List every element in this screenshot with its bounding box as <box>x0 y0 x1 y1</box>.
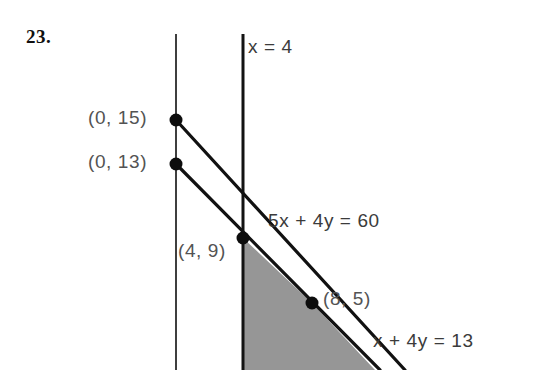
point-marker-8-5 <box>306 297 319 310</box>
line-label-5x-plus-4y-60: 5x + 4y = 60 <box>268 210 380 232</box>
line-label-x-equals-4: x = 4 <box>248 36 293 58</box>
point-marker-0-15 <box>170 114 183 127</box>
line-label-x-plus-4y-13: x + 4y = 13 <box>373 330 474 352</box>
point-marker-4-9 <box>237 232 250 245</box>
point-label-8-5: (8, 5) <box>323 288 371 310</box>
point-label-0-15: (0, 15) <box>88 107 147 129</box>
point-label-0-13: (0, 13) <box>88 151 147 173</box>
point-marker-0-13 <box>170 158 183 171</box>
point-label-4-9: (4, 9) <box>178 240 226 262</box>
